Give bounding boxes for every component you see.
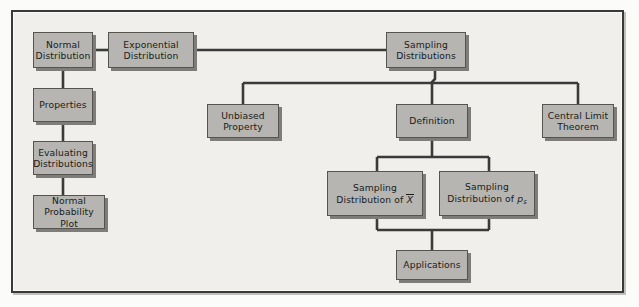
- node-sampling-distribution-xbar[interactable]: Sampling Distribution of X: [327, 171, 423, 216]
- node-label-line2: Distribution: [36, 50, 91, 61]
- node-label-prefix: Distribution of: [336, 194, 406, 205]
- node-label-line1: Sampling: [396, 39, 456, 50]
- figure-stage: Normal Distribution Exponential Distribu…: [0, 0, 639, 307]
- node-label-line2: Distributions: [396, 50, 456, 61]
- flowchart-canvas: Normal Distribution Exponential Distribu…: [11, 10, 624, 293]
- node-label-line2: Distribution of ps: [447, 193, 526, 206]
- node-sampling-distribution-ps[interactable]: Sampling Distribution of ps: [439, 171, 535, 216]
- node-label-line1: Properties: [39, 99, 86, 110]
- node-label-prefix: Distribution of: [447, 193, 517, 204]
- node-label-line1: Sampling: [447, 181, 526, 192]
- node-label-line2: Distribution: [123, 50, 178, 61]
- node-label-line1: Unbiased: [221, 110, 265, 121]
- node-label-line1: Definition: [409, 115, 455, 126]
- node-label-line1: Normal: [36, 39, 91, 50]
- node-label-line1: Sampling: [336, 182, 413, 193]
- node-normal-probability-plot[interactable]: Normal Probability Plot: [33, 195, 105, 229]
- node-definition[interactable]: Definition: [396, 104, 468, 138]
- connector-lines: [11, 10, 624, 293]
- node-label-line2: Probability Plot: [37, 206, 101, 228]
- node-evaluating-distributions[interactable]: Evaluating Distributions: [33, 141, 93, 175]
- node-label-line1: Evaluating: [33, 147, 93, 158]
- node-label-line2: Property: [221, 121, 265, 132]
- node-exponential-distribution[interactable]: Exponential Distribution: [108, 32, 194, 68]
- node-label-line2: Distribution of X: [336, 194, 413, 205]
- node-unbiased-property[interactable]: Unbiased Property: [207, 104, 279, 138]
- node-applications[interactable]: Applications: [396, 250, 468, 280]
- node-central-limit-theorem[interactable]: Central Limit Theorem: [542, 104, 614, 138]
- node-label-line1: Normal: [37, 195, 101, 206]
- node-label-line1: Central Limit: [548, 110, 608, 121]
- node-label-line2: Distributions: [33, 158, 93, 169]
- node-sampling-distributions[interactable]: Sampling Distributions: [386, 32, 466, 68]
- node-label-line2: Theorem: [548, 121, 608, 132]
- node-label-line1: Exponential: [123, 39, 178, 50]
- xbar-symbol: X: [406, 194, 413, 205]
- node-label-line1: Applications: [403, 259, 460, 270]
- p-subscript: s: [523, 198, 527, 206]
- node-properties[interactable]: Properties: [33, 88, 93, 122]
- node-normal-distribution[interactable]: Normal Distribution: [33, 32, 93, 68]
